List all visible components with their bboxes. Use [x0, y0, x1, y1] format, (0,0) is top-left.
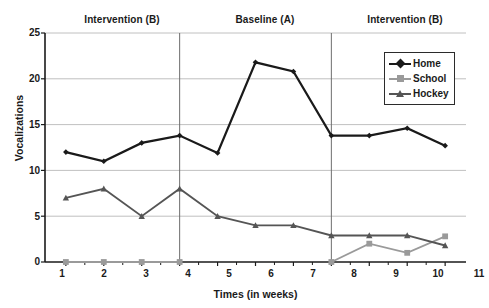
legend-item-home: Home	[389, 56, 449, 71]
data-point	[442, 233, 448, 239]
data-point	[366, 241, 372, 247]
data-point	[176, 186, 182, 192]
legend-label-school: School	[411, 73, 446, 84]
legend-key-home-diamond-icon	[389, 57, 411, 70]
series-school	[63, 233, 448, 264]
data-point	[328, 259, 334, 265]
data-point	[63, 259, 69, 265]
data-point	[177, 259, 183, 265]
data-point	[366, 133, 372, 139]
legend-key-hockey-triangle-icon	[389, 87, 411, 100]
legend-item-hockey: Hockey	[389, 86, 449, 101]
data-point	[139, 259, 145, 265]
data-point	[63, 149, 69, 155]
legend-label-hockey: Hockey	[411, 88, 449, 99]
data-point	[404, 250, 410, 256]
chart-legend: Home School Hockey	[384, 52, 455, 105]
legend-key-school-square-icon	[389, 72, 411, 85]
legend-label-home: Home	[411, 58, 441, 69]
legend-item-school: School	[389, 71, 449, 86]
series-hockey	[63, 186, 449, 249]
data-point	[101, 259, 107, 265]
